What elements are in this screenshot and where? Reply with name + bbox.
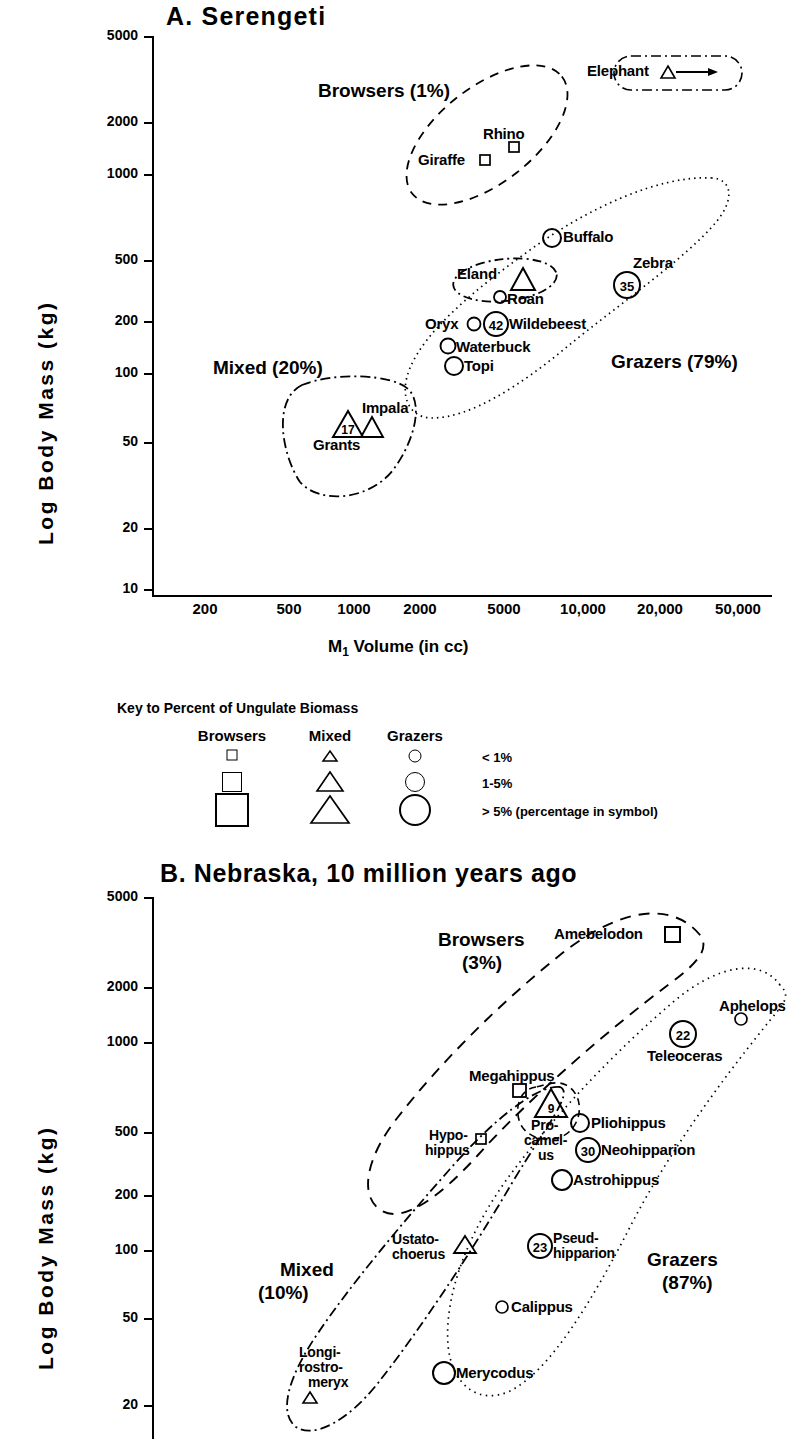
symbol-calippus xyxy=(496,1301,508,1313)
legend-triangle-tiny xyxy=(323,751,337,761)
symbol-pliohippus xyxy=(571,1114,589,1132)
label-oryx: Oryx xyxy=(425,316,458,331)
label-roan: Roan xyxy=(507,291,544,306)
label-elephant: Elephant xyxy=(587,63,649,78)
symbol-topi xyxy=(445,357,463,375)
legend-row-label-lt1: < 1% xyxy=(482,750,512,765)
label-longirostromeryx-line2: rostro- xyxy=(299,1360,343,1374)
group-label-browsers-b-pct: (3%) xyxy=(462,953,502,973)
label-grants: Grants xyxy=(313,437,360,452)
group-label-grazers-b-pct: (87%) xyxy=(662,1273,713,1293)
label-procamelus-line1: Pro- xyxy=(531,1118,558,1132)
label-megahippus: Megahippus xyxy=(469,1068,555,1083)
symbol-eland xyxy=(511,268,535,290)
legend-triangle-med xyxy=(317,772,343,791)
panel-nebraska: B. Nebraska, 10 million years ago Log Bo… xyxy=(0,835,810,1439)
symbol-rhino xyxy=(509,142,519,152)
label-pseudhipparion-line1: Pseud- xyxy=(553,1231,598,1245)
label-hypohippus-line2: hippus xyxy=(425,1143,470,1157)
label-aphelops: Aphelops xyxy=(719,998,786,1013)
envelope-grazers-a xyxy=(405,178,729,418)
symbol-megahippus xyxy=(513,1084,526,1097)
x-axis-label-a: M1 Volume (in cc) xyxy=(328,637,469,659)
group-label-browsers-b: Browsers xyxy=(438,930,525,950)
elephant-arrow-head xyxy=(708,68,718,76)
group-label-browsers-a: Browsers (1%) xyxy=(318,81,450,101)
symbol-elephant xyxy=(661,66,675,78)
legend-circle-big xyxy=(399,794,431,826)
group-label-mixed-b-pct: (10%) xyxy=(258,1283,309,1303)
value-grants: 17 xyxy=(341,423,354,437)
value-pseudhipparion: 23 xyxy=(533,1240,547,1255)
symbol-impala xyxy=(361,417,383,437)
label-neohipparion: Neohipparion xyxy=(601,1142,695,1157)
value-teleoceras: 22 xyxy=(676,1028,690,1043)
value-neohipparion: 30 xyxy=(581,1144,595,1159)
group-label-grazers-a: Grazers (79%) xyxy=(611,352,738,372)
x-axis-label-post: Volume (in cc) xyxy=(349,637,469,656)
label-ustatochoerus-line1: Ustato- xyxy=(392,1232,439,1246)
symbol-waterbuck xyxy=(441,339,456,354)
legend-square-big xyxy=(215,793,249,827)
symbol-buffalo xyxy=(543,229,561,247)
label-rhino: Rhino xyxy=(483,126,525,141)
label-waterbuck: Waterbuck xyxy=(456,339,530,354)
symbol-astrohippus xyxy=(552,1170,572,1190)
label-longirostromeryx-line1: Longi- xyxy=(299,1345,341,1359)
label-longirostromeryx-line3: meryx xyxy=(308,1375,348,1389)
symbol-merycodus xyxy=(433,1362,455,1384)
label-zebra: Zebra xyxy=(633,255,673,270)
label-astrohippus: Astrohippus xyxy=(573,1172,659,1187)
symbol-aphelops xyxy=(735,1013,747,1025)
label-procamelus-line3: us xyxy=(538,1148,554,1162)
value-wildebeest: 42 xyxy=(489,318,503,333)
label-merycodus: Merycodus xyxy=(456,1365,533,1380)
label-calippus: Calippus xyxy=(511,1299,573,1314)
label-giraffe: Giraffe xyxy=(418,152,465,167)
legend-triangle-big xyxy=(311,796,349,823)
label-ustatochoerus-line2: choerus xyxy=(392,1247,445,1261)
legend-circle-tiny xyxy=(409,750,422,763)
group-label-mixed-b: Mixed xyxy=(280,1260,334,1280)
symbol-amebelodon xyxy=(665,927,680,942)
symbol-roan xyxy=(494,291,506,303)
label-amebelodon: Amebelodon xyxy=(554,926,643,941)
x-axis-label-pre: M xyxy=(328,637,342,656)
label-teleoceras: Teleoceras xyxy=(647,1048,722,1063)
label-wildebeest: Wildebeest xyxy=(509,316,586,331)
symbol-longirostromeryx xyxy=(303,1392,317,1403)
panel-b-plot-area xyxy=(0,835,810,1439)
symbol-giraffe xyxy=(480,155,490,165)
legend-row-label-1-5: 1-5% xyxy=(482,776,512,791)
panel-serengeti: A. Serengeti Log Body Mass (kg) 5000 200… xyxy=(0,0,810,660)
symbol-oryx xyxy=(468,318,481,331)
label-pliohippus: Pliohippus xyxy=(591,1115,666,1130)
value-zebra: 35 xyxy=(620,279,634,294)
label-eland: Eland xyxy=(457,266,497,281)
legend-circle-med xyxy=(405,772,425,792)
group-label-grazers-b: Grazers xyxy=(647,1250,718,1270)
label-pseudhipparion-line2: hipparion xyxy=(553,1246,615,1260)
label-procamelus-line2: camel- xyxy=(524,1133,567,1147)
label-impala: Impala xyxy=(362,400,408,415)
label-topi: Topi xyxy=(464,358,494,373)
legend-square-med xyxy=(222,772,242,792)
value-procamelus: 9 xyxy=(548,1102,555,1116)
legend-key: Key to Percent of Ungulate Biomass Brows… xyxy=(0,660,810,835)
label-buffalo: Buffalo xyxy=(563,229,613,244)
label-hypohippus-line1: Hypo- xyxy=(429,1128,468,1142)
group-label-mixed-a: Mixed (20%) xyxy=(213,358,323,378)
x-axis-label-sub: 1 xyxy=(342,645,349,659)
legend-row-label-gt5: > 5% (percentage in symbol) xyxy=(482,804,658,819)
